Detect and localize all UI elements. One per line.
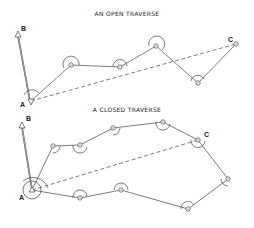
station-b-icon — [19, 122, 25, 128]
open-label-b: B — [21, 25, 26, 32]
open-stations — [69, 42, 238, 85]
closed-label-a: A — [19, 194, 24, 201]
open-traverse — [15, 31, 238, 105]
open-label-a: A — [20, 101, 25, 108]
station-a-icon — [28, 99, 34, 105]
closed-label-b: B — [26, 115, 31, 122]
closed-label-c: C — [204, 131, 209, 138]
open-label-c: C — [228, 36, 233, 43]
traverse-diagram: B A C B A C — [0, 0, 254, 228]
closed-traverse — [19, 120, 230, 211]
